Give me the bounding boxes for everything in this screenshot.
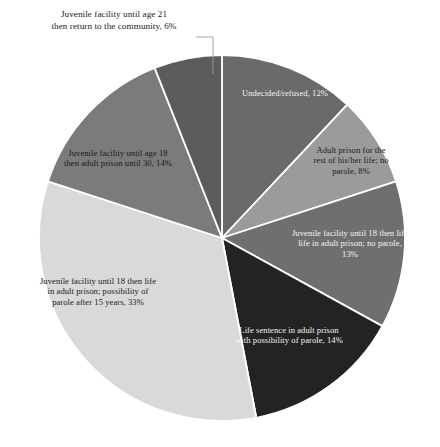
slice-label-juvenile-18-life-no-parole: Juvenile facility until 18 then life lif… (262, 228, 438, 259)
slice-label-juvenile-21-community: Juvenile facility until age 21 then retu… (14, 9, 214, 32)
slice-label-undecided-refused: Undecided/refused, 12% (215, 88, 355, 98)
pie-chart-figure: Juvenile facility until age 21 then retu… (0, 0, 440, 447)
slice-label-life-sentence-possibility-parole: Life sentence in adult prison with possi… (196, 325, 382, 346)
slice-label-adult-prison-life-no-parole: Adult prison for the rest of his/her lif… (295, 145, 407, 176)
pie-chart-canvas (0, 0, 440, 447)
slice-label-juvenile-18-life-parole-15: Juvenile facility until 18 then life in … (6, 276, 190, 307)
slice-label-juvenile-18-adult-prison-30: Juvenile facility until age 18 then adul… (42, 148, 194, 169)
